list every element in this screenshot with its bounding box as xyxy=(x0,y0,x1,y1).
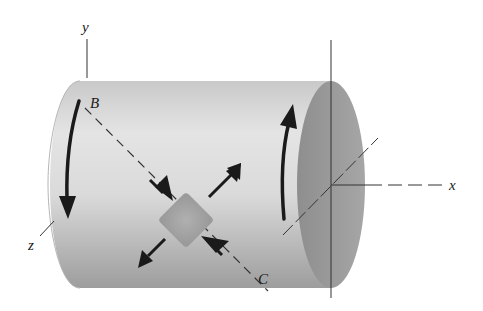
y-axis-label: y xyxy=(80,19,89,35)
z-axis-label: z xyxy=(27,237,34,253)
point-b-label: B xyxy=(90,95,99,111)
point-c-label: C xyxy=(258,271,269,287)
x-axis-label: x xyxy=(448,177,456,193)
torsion-shaft-diagram: x y z B C xyxy=(0,0,483,311)
